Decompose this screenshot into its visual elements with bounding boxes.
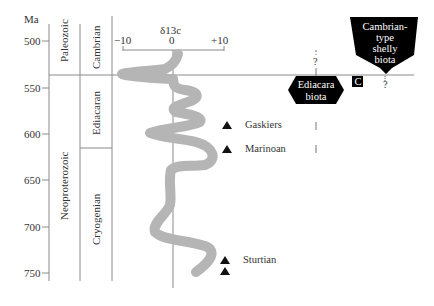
- period-ediacaran: Ediacaran: [90, 91, 102, 135]
- sturtian-triangle-icon-1: [220, 256, 230, 264]
- c-marker-label: C: [355, 76, 362, 87]
- gaskiers-triangle-icon: [222, 121, 232, 129]
- period-cambrian: Cambrian: [90, 25, 102, 69]
- glaciation-markers: Gaskiers Marinoan Sturtian: [220, 119, 287, 275]
- isotope-tick-neg10: −10: [114, 34, 132, 46]
- ma-axis-label: Ma: [24, 13, 39, 25]
- tick-750: 750: [24, 267, 41, 279]
- ediacara-line2: biota: [306, 91, 327, 102]
- cambrian-question-mark: ?: [383, 79, 388, 90]
- carbon-isotope-curve: [122, 54, 213, 272]
- period-cryogenian: Cryogenian: [90, 193, 102, 245]
- tick-550: 550: [24, 82, 41, 94]
- isotope-tick-0: 0: [169, 34, 175, 46]
- era-neoproterozoic: Neoproterozoic: [58, 151, 70, 220]
- tick-500: 500: [24, 35, 41, 47]
- gaskiers-label: Gaskiers: [245, 119, 282, 130]
- isotope-tick-pos10: +10: [211, 34, 229, 46]
- ediacara-biota: ? Ediacara biota: [288, 50, 344, 153]
- era-paleozoic: Paleozoic: [58, 19, 70, 62]
- marinoan-label: Marinoan: [245, 143, 287, 154]
- age-axis: 500 550 600 650 700 750: [24, 35, 49, 279]
- sturtian-triangle-icon-2: [220, 267, 230, 275]
- tick-700: 700: [24, 221, 41, 233]
- column-grid: [49, 16, 414, 288]
- neoproterozoic-timeline-diagram: Ma 500 550 600 650 700 750 Paleozoic Neo…: [0, 0, 434, 306]
- tick-650: 650: [24, 174, 41, 186]
- ediacara-line1: Ediacara: [298, 79, 335, 90]
- cambrian-line2: type: [376, 32, 394, 43]
- marinoan-triangle-icon: [222, 145, 232, 153]
- cambrian-line3: shelly: [372, 43, 398, 54]
- cambrian-line1: Cambrian-: [363, 21, 408, 32]
- cambrian-line4: biota: [375, 54, 396, 65]
- sturtian-label: Sturtian: [243, 254, 277, 265]
- ediacara-question-mark: ?: [313, 56, 318, 67]
- tick-600: 600: [24, 128, 41, 140]
